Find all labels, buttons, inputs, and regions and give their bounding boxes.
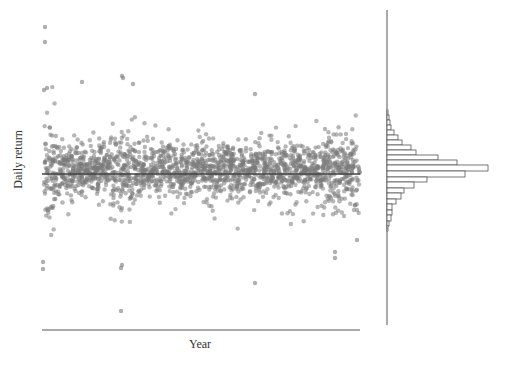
data-point [120, 130, 124, 134]
data-point [60, 137, 64, 141]
data-point [129, 195, 133, 199]
data-point [257, 151, 261, 155]
data-point [166, 127, 170, 131]
data-point [315, 205, 319, 209]
data-point [65, 165, 69, 169]
data-point [53, 184, 57, 188]
data-point [172, 148, 176, 152]
data-point [159, 179, 163, 183]
data-point [331, 132, 335, 136]
data-point [275, 182, 279, 186]
data-point [171, 182, 175, 186]
histogram-bar [387, 130, 394, 135]
data-point [277, 146, 281, 150]
data-point [232, 183, 236, 187]
data-point [177, 180, 181, 184]
data-point [210, 148, 214, 152]
data-point [262, 189, 266, 193]
data-point [168, 175, 172, 179]
data-point [97, 136, 101, 140]
data-point [288, 192, 292, 196]
data-point [334, 178, 338, 182]
x-axis-label: Year [170, 337, 230, 352]
data-point [353, 203, 357, 207]
data-point [204, 161, 208, 165]
data-point [109, 152, 113, 156]
data-point [226, 144, 230, 148]
data-point [59, 149, 63, 153]
data-point [69, 193, 73, 197]
data-point [142, 168, 146, 172]
data-point [43, 191, 47, 195]
data-point [55, 145, 59, 149]
data-point [112, 157, 116, 161]
histogram-bar [387, 215, 391, 221]
data-point [302, 219, 306, 223]
data-point [118, 194, 122, 198]
data-point [293, 124, 297, 128]
data-point [354, 113, 358, 117]
data-point [155, 187, 159, 191]
data-point [95, 167, 99, 171]
data-point [42, 182, 46, 186]
data-point [47, 149, 51, 153]
data-point [89, 179, 93, 183]
data-point [214, 195, 218, 199]
data-point [52, 151, 56, 155]
data-point [185, 166, 189, 170]
data-point [62, 174, 66, 178]
data-point [83, 195, 87, 199]
data-point [113, 136, 117, 140]
data-point [215, 178, 219, 182]
data-point [57, 192, 61, 196]
histogram-bar [387, 165, 488, 171]
data-point [250, 157, 254, 161]
data-point [314, 119, 318, 123]
outlier-point [121, 76, 125, 80]
data-point [136, 173, 140, 177]
data-point [111, 122, 115, 126]
data-point [347, 180, 351, 184]
data-point [321, 164, 325, 168]
data-point [314, 171, 318, 175]
data-point [211, 164, 215, 168]
data-point [354, 158, 358, 162]
data-point [240, 159, 244, 163]
data-point [48, 133, 52, 137]
data-point [251, 166, 255, 170]
data-point [56, 154, 60, 158]
data-point [133, 149, 137, 153]
data-point [80, 151, 84, 155]
data-point [102, 187, 106, 191]
data-point [311, 150, 315, 154]
data-point [199, 152, 203, 156]
data-point [269, 133, 273, 137]
data-point [148, 194, 152, 198]
outlier-point [80, 80, 84, 84]
data-point [101, 171, 105, 175]
data-point [181, 142, 185, 146]
data-point [113, 218, 117, 222]
data-point [344, 137, 348, 141]
histogram-bar [387, 135, 398, 140]
scatter-points [41, 25, 362, 313]
data-point [271, 176, 275, 180]
data-point [213, 187, 217, 191]
returns-scatter-with-marginal-histogram: Daily return Year [0, 0, 505, 365]
data-point [141, 138, 145, 142]
data-point [120, 206, 124, 210]
data-point [169, 211, 173, 215]
data-point [120, 136, 124, 140]
data-point [46, 166, 50, 170]
histogram-bar [387, 115, 389, 120]
data-point [58, 160, 62, 164]
histogram-bar [387, 226, 388, 231]
histogram-bar [387, 199, 396, 204]
data-point [258, 183, 262, 187]
data-point [326, 144, 330, 148]
data-point [127, 184, 131, 188]
data-point [204, 132, 208, 136]
data-point [120, 219, 124, 223]
data-point [244, 137, 248, 141]
data-point [248, 189, 252, 193]
